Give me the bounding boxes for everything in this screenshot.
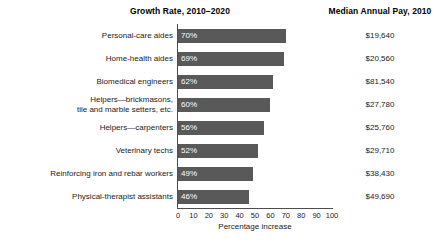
category-label-line: Biomedical engineers xyxy=(97,77,174,87)
bar-track: 62% xyxy=(178,75,332,89)
chart-row: Home-health aides69%$20,560 xyxy=(0,47,445,70)
bar: 56% xyxy=(178,121,264,135)
category-label: Physical-therapist assistants xyxy=(72,185,177,208)
bar-value-label: 56% xyxy=(181,121,197,135)
category-label: Veterinary techs xyxy=(116,139,177,162)
category-label-line: Physical-therapist assistants xyxy=(72,192,173,202)
category-label-line: Personal-care aides xyxy=(102,31,173,41)
category-label: Reinforcing iron and rebar workers xyxy=(50,162,177,185)
bar: 62% xyxy=(178,75,273,89)
median-pay-value: $49,690 xyxy=(318,185,442,208)
median-pay-value: $25,760 xyxy=(318,116,442,139)
bar-track: 49% xyxy=(178,167,332,181)
x-axis-line xyxy=(177,208,333,209)
bar-value-label: 46% xyxy=(181,190,197,204)
category-label-line: Helpers—carpenters xyxy=(100,123,173,133)
x-tick-label: 10 xyxy=(189,210,197,221)
category-label-line: Home-health aides xyxy=(106,54,173,64)
category-label: Home-health aides xyxy=(106,47,177,70)
bar-track: 56% xyxy=(178,121,332,135)
x-tick-label: 20 xyxy=(205,210,213,221)
x-tick-label: 30 xyxy=(220,210,228,221)
chart-row: Helpers—carpenters56%$25,760 xyxy=(0,116,445,139)
x-axis-ticks: 0102030405060708090100 xyxy=(178,210,332,222)
category-label-line: Helpers—brickmasons, xyxy=(90,95,173,105)
bar-value-label: 70% xyxy=(181,29,197,43)
bar-chart: Personal-care aides70%$19,640Home-health… xyxy=(0,24,445,247)
bar: 52% xyxy=(178,144,258,158)
x-axis-title: Percentage increase xyxy=(178,222,332,231)
bar-track: 46% xyxy=(178,190,332,204)
bar-track: 70% xyxy=(178,29,332,43)
bar: 46% xyxy=(178,190,249,204)
bar-value-label: 60% xyxy=(181,98,197,112)
bar-track: 52% xyxy=(178,144,332,158)
bar-value-label: 49% xyxy=(181,167,197,181)
bar: 69% xyxy=(178,52,284,66)
bar-track: 69% xyxy=(178,52,332,66)
x-tick-label: 80 xyxy=(297,210,305,221)
x-tick-label: 90 xyxy=(312,210,320,221)
x-tick-label: 60 xyxy=(266,210,274,221)
chart-row: Helpers—brickmasons,tile and marble sett… xyxy=(0,93,445,116)
bar-value-label: 52% xyxy=(181,144,197,158)
median-pay-header: Median Annual Pay, 2010 xyxy=(318,6,442,16)
median-pay-value: $20,560 xyxy=(318,47,442,70)
x-tick-label: 100 xyxy=(326,210,339,221)
bar: 60% xyxy=(178,98,270,112)
category-label-line: Reinforcing iron and rebar workers xyxy=(50,169,173,179)
category-label-line: Veterinary techs xyxy=(116,146,173,156)
median-pay-value: $19,640 xyxy=(318,24,442,47)
chart-headers: Growth Rate, 2010–2020 Median Annual Pay… xyxy=(0,0,445,24)
x-tick-label: 70 xyxy=(282,210,290,221)
growth-rate-header: Growth Rate, 2010–2020 xyxy=(105,6,255,16)
bar-track: 60% xyxy=(178,98,332,112)
x-tick-label: 40 xyxy=(235,210,243,221)
bar-value-label: 62% xyxy=(181,75,197,89)
category-label: Personal-care aides xyxy=(102,24,177,47)
bar: 70% xyxy=(178,29,286,43)
chart-row: Biomedical engineers62%$81,540 xyxy=(0,70,445,93)
category-label: Helpers—brickmasons,tile and marble sett… xyxy=(77,93,177,116)
bar: 49% xyxy=(178,167,253,181)
x-tick-label: 50 xyxy=(251,210,259,221)
median-pay-value: $27,780 xyxy=(318,93,442,116)
category-label-line: tile and marble setters, etc. xyxy=(77,105,173,115)
chart-rows: Personal-care aides70%$19,640Home-health… xyxy=(0,24,445,208)
bar-value-label: 69% xyxy=(181,52,197,66)
category-label: Helpers—carpenters xyxy=(100,116,177,139)
chart-row: Reinforcing iron and rebar workers49%$38… xyxy=(0,162,445,185)
chart-row: Veterinary techs52%$29,710 xyxy=(0,139,445,162)
median-pay-value: $38,430 xyxy=(318,162,442,185)
chart-row: Physical-therapist assistants46%$49,690 xyxy=(0,185,445,208)
category-label: Biomedical engineers xyxy=(97,70,178,93)
median-pay-value: $81,540 xyxy=(318,70,442,93)
x-tick-label: 0 xyxy=(176,210,180,221)
chart-row: Personal-care aides70%$19,640 xyxy=(0,24,445,47)
y-axis-line xyxy=(177,24,178,208)
median-pay-value: $29,710 xyxy=(318,139,442,162)
